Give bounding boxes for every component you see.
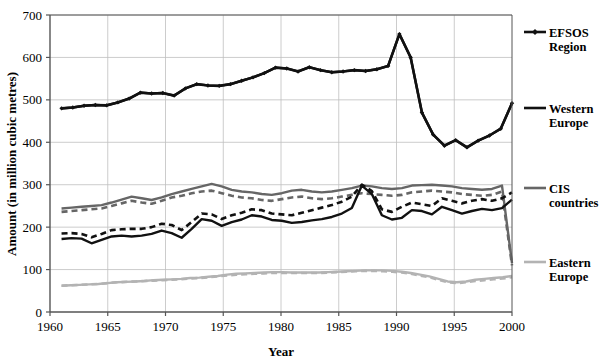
y-tick-label: 400 [23,135,43,150]
chart-figure: 7006005004003002001000196019651970197519… [0,0,608,362]
y-tick-label: 500 [23,92,43,107]
y-tick-label: 0 [36,305,43,320]
x-tick-label: 1980 [268,319,294,334]
x-tick-label: 1970 [153,319,179,334]
legend-label-line1: EFSOS [549,26,589,40]
y-tick-label: 700 [23,8,43,23]
y-tick-label: 300 [23,177,43,192]
line-chart-canvas: 7006005004003002001000196019651970197519… [0,0,608,362]
x-tick-label: 1975 [210,319,236,334]
y-tick-label: 200 [23,220,43,235]
legend-label-line2: Europe [549,116,589,130]
chart-background [0,0,608,362]
legend-label-line1: Eastern [549,256,591,270]
y-tick-label: 600 [23,50,43,65]
y-tick-label: 100 [23,262,43,277]
x-axis-title: Year [268,344,294,359]
legend-label-line2: Region [549,40,587,54]
x-tick-label: 1965 [95,319,121,334]
x-tick-label: 1960 [37,319,63,334]
x-tick-label: 1990 [384,319,410,334]
x-tick-label: 1985 [326,319,352,334]
legend-label-line1: CIS [549,182,570,196]
legend-label-line2: Europe [549,270,589,284]
legend-label-line2: countries [549,196,598,210]
legend-label-line1: Western [549,102,593,116]
x-tick-label: 2000 [499,319,525,334]
x-tick-label: 1995 [441,319,467,334]
y-axis-title: Amount (in million cubic metres) [4,72,19,256]
